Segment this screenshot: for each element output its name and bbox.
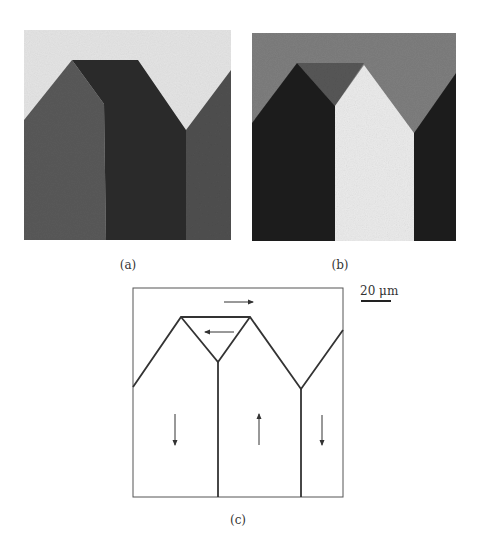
panel-c-schematic <box>130 285 346 501</box>
panel-b-micrograph <box>252 33 456 241</box>
panel-b-label: (b) <box>325 258 355 272</box>
panel-a-micrograph <box>24 30 231 240</box>
scale-bar <box>361 300 391 302</box>
micrograph-a-image <box>24 30 231 240</box>
panel-c-label: (c) <box>223 513 253 527</box>
domain-schematic <box>130 285 346 501</box>
micrograph-b-image <box>252 33 456 241</box>
scale-bar-label: 20 μm <box>360 284 398 298</box>
panel-a-label: (a) <box>113 258 143 272</box>
